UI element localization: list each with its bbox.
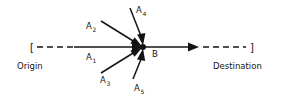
vector-a2-label-subscript: 2 xyxy=(93,26,97,33)
vector-a3-label: A 3 xyxy=(100,75,111,87)
arrowhead-destination xyxy=(188,43,199,52)
vector-a5-line xyxy=(133,58,142,79)
vector-a4-label-text: A xyxy=(136,5,142,15)
vector-a1-label: A 1 xyxy=(86,52,97,64)
vector-a2-label: A 2 xyxy=(86,21,97,33)
vector-a4-label-subscript: 4 xyxy=(143,10,147,17)
vector-a5-label-text: A xyxy=(134,83,140,93)
destination-bracket: ] xyxy=(250,42,254,53)
vector-a3-line xyxy=(101,53,134,74)
vector-a3-label-subscript: 3 xyxy=(107,80,111,87)
vector-a4-label: A 4 xyxy=(136,5,147,17)
origin-bracket: [ xyxy=(30,42,34,53)
vector-a2-line xyxy=(101,21,134,42)
destination-label: Destination xyxy=(213,61,262,71)
vector-a1-label-text: A xyxy=(86,52,92,62)
vector-a5-label: A 5 xyxy=(134,83,145,95)
origin-label: Origin xyxy=(17,61,43,71)
vector-a3 xyxy=(101,47,142,73)
vector-a1-label-subscript: 1 xyxy=(93,57,97,64)
vector-a5-label-subscript: 5 xyxy=(141,88,145,95)
node-b-label: B xyxy=(152,49,158,59)
vector-a2-label-text: A xyxy=(86,21,92,31)
diagram-canvas: A 1 A 2 A 3 A 4 A 5 B [ Origin ] Destin xyxy=(0,0,286,97)
vector-a3-label-text: A xyxy=(100,75,106,85)
vector-convergence-diagram: A 1 A 2 A 3 A 4 A 5 B [ Origin ] Destin xyxy=(0,0,286,97)
